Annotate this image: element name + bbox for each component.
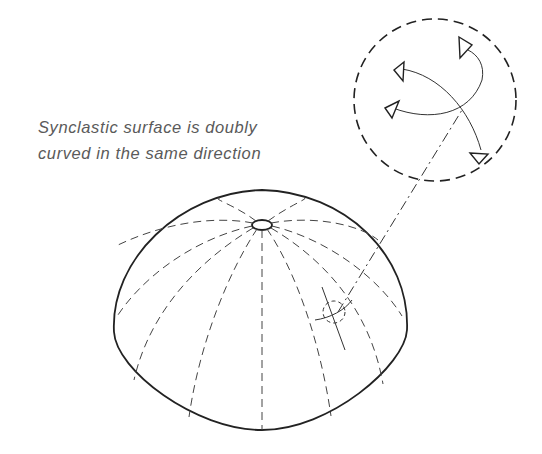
detail-marker — [315, 287, 352, 350]
arrowhead-left-upper-icon — [394, 62, 404, 81]
curvature-arc-1 — [402, 69, 481, 150]
curvature-arrows — [393, 50, 483, 150]
arrowhead-down-icon — [470, 153, 488, 164]
callout-circle — [354, 19, 516, 181]
arrowhead-up-icon — [459, 37, 472, 58]
dome-diagram — [0, 0, 542, 454]
arrowheads — [385, 37, 488, 164]
apex-oculus — [252, 220, 272, 230]
dome-outline — [114, 190, 407, 430]
curvature-arc-2 — [393, 50, 483, 115]
